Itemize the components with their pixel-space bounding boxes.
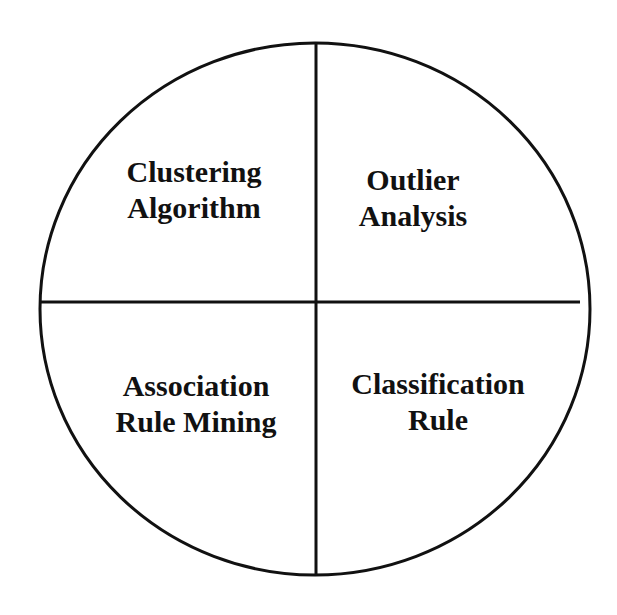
quadrant-bottom-right-line1: Classification [351, 366, 524, 402]
quadrant-top-right-label: Outlier Analysis [359, 162, 467, 234]
quadrant-top-right-line2: Analysis [359, 198, 467, 234]
quadrant-top-left-line1: Clustering [127, 154, 262, 190]
quadrant-bottom-right-label: Classification Rule [351, 366, 524, 438]
quadrant-top-left-line2: Algorithm [127, 190, 262, 226]
quadrant-top-right-line1: Outlier [359, 162, 467, 198]
quadrant-bottom-left-label: Association Rule Mining [116, 368, 277, 440]
quadrant-top-left-label: Clustering Algorithm [127, 154, 262, 226]
quadrant-bottom-right-line2: Rule [351, 402, 524, 438]
quadrant-bottom-left-line2: Rule Mining [116, 404, 277, 440]
quadrant-diagram [0, 0, 617, 615]
quadrant-bottom-left-line1: Association [116, 368, 277, 404]
